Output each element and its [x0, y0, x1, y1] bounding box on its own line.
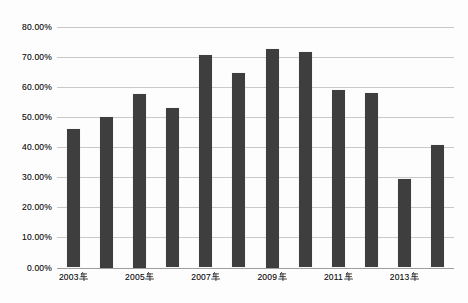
gridline-40 [57, 147, 454, 148]
x-tick-label-2007: 2007 [178, 272, 234, 282]
bar-2013年 [398, 179, 411, 268]
bar-chart-figure: 0.00%10.00%20.00%30.00%40.00%50.00%60.00… [0, 0, 468, 303]
x-tick-label-2005: 2005 [112, 272, 168, 282]
bar-2009年 [266, 49, 279, 267]
bar-2008年 [232, 73, 245, 267]
year-kanji-glyph [79, 272, 88, 281]
bar-2004年 [100, 117, 113, 268]
year-kanji-glyph [211, 272, 220, 281]
x-tick-year-digits: 2009 [257, 272, 277, 282]
bar-2014年 [431, 145, 444, 267]
gridline-50 [57, 117, 454, 118]
year-kanji-glyph [344, 272, 353, 281]
year-kanji-glyph [278, 272, 287, 281]
year-kanji-glyph [410, 272, 419, 281]
x-tick-label-2009: 2009 [244, 272, 300, 282]
x-tick-year-digits: 2007 [191, 272, 211, 282]
gridline-20 [57, 207, 454, 208]
x-tick-year-digits: 2013 [390, 272, 410, 282]
plot-area: 0.00%10.00%20.00%30.00%40.00%50.00%60.00… [0, 0, 468, 303]
gridline-80 [57, 27, 454, 28]
bar-2010年 [299, 52, 312, 267]
y-tick-label: 50.00% [0, 112, 52, 122]
y-tick-label: 70.00% [0, 52, 52, 62]
bar-2006年 [166, 108, 179, 268]
x-tick-label-2013: 2013 [376, 272, 432, 282]
bar-2007年 [199, 55, 212, 267]
bar-2012年 [365, 93, 378, 268]
year-kanji-glyph [145, 272, 154, 281]
y-tick-label: 10.00% [0, 232, 52, 242]
gridline-60 [57, 87, 454, 88]
x-axis-line [57, 268, 454, 269]
gridline-30 [57, 177, 454, 178]
bar-2003年 [67, 129, 80, 268]
y-tick-label: 60.00% [0, 82, 52, 92]
gridline-70 [57, 57, 454, 58]
y-tick-label: 30.00% [0, 172, 52, 182]
y-tick-label: 40.00% [0, 142, 52, 152]
y-tick-label: 20.00% [0, 202, 52, 212]
y-tick-label: 80.00% [0, 22, 52, 32]
x-tick-year-digits: 2011 [324, 272, 343, 282]
x-tick-label-2011: 2011 [310, 272, 366, 282]
bar-2011年 [332, 90, 345, 268]
gridline-10 [57, 237, 454, 238]
x-tick-year-digits: 2005 [125, 272, 145, 282]
bar-2005年 [133, 94, 146, 267]
x-tick-label-2003: 2003 [46, 272, 102, 282]
x-tick-year-digits: 2003 [59, 272, 79, 282]
y-tick-label: 0.00% [0, 263, 52, 273]
